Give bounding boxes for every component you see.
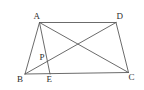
segment-bc	[25, 73, 129, 75]
segment-ab	[25, 23, 40, 75]
vertex-label-e: E	[47, 75, 53, 84]
vertex-label-c: C	[129, 73, 135, 82]
vertex-label-p: P	[40, 53, 45, 62]
vertex-label-a: A	[34, 12, 41, 21]
segment-bd-diagonal	[25, 23, 116, 75]
segments-group	[25, 23, 129, 75]
segment-ac-diagonal	[40, 23, 129, 73]
segment-dc	[116, 23, 129, 73]
vertex-label-b: B	[17, 75, 23, 84]
vertex-label-d: D	[117, 12, 124, 21]
geometry-figure: ADBCEP	[0, 0, 144, 90]
segment-ae	[40, 23, 51, 75]
